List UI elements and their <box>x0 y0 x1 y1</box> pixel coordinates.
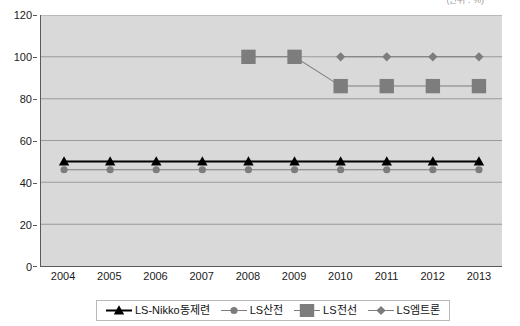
plot-area <box>40 15 502 267</box>
series-line <box>248 57 478 86</box>
unit-annotation: (단위 : %) <box>447 0 485 6</box>
x-axis-tick-label: 2008 <box>236 270 260 282</box>
chart-legend: LS-Nikko동제련LS산전LS전선LS엠트론 <box>96 300 450 321</box>
marker-diamond <box>382 52 391 61</box>
x-axis: 2004200520062007200820092010201120122013 <box>40 270 502 288</box>
y-axis-tick-label: 80 <box>20 94 32 105</box>
marker-square <box>300 304 314 317</box>
x-axis-tick-label: 2006 <box>143 270 167 282</box>
y-axis-tick-label: 0 <box>26 262 32 273</box>
y-axis: 020406080100120 <box>0 15 36 267</box>
marker-square <box>426 79 440 93</box>
triangle-marker-icon <box>106 304 132 317</box>
series-2 <box>60 166 482 173</box>
y-axis-tick-mark <box>33 15 37 16</box>
marker-diamond <box>376 306 385 315</box>
legend-item-label: LS엠트론 <box>397 305 440 316</box>
marker-circle <box>291 166 298 173</box>
marker-diamond <box>474 52 483 61</box>
y-axis-tick-mark <box>33 183 37 184</box>
y-axis-tick-mark <box>33 266 37 267</box>
marker-diamond <box>336 52 345 61</box>
marker-square <box>241 50 255 64</box>
marker-circle <box>245 166 252 173</box>
y-axis-tick-mark <box>33 141 37 142</box>
series-1 <box>59 156 484 165</box>
y-axis-tick-label: 40 <box>20 178 32 189</box>
x-axis-tick-label: 2004 <box>51 270 75 282</box>
marker-circle <box>230 307 237 314</box>
diamond-marker-icon <box>368 304 394 317</box>
series-4 <box>336 52 483 61</box>
marker-circle <box>60 166 67 173</box>
marker-square <box>472 79 486 93</box>
y-axis-tick-label: 120 <box>14 10 32 21</box>
marker-circle <box>383 166 390 173</box>
y-axis-tick-label: 100 <box>14 52 32 63</box>
chart-container: (단위 : %) 020406080100120 200420052006200… <box>0 0 520 326</box>
marker-diamond <box>428 52 437 61</box>
x-axis-tick-label: 2012 <box>420 270 444 282</box>
x-axis-tick-label: 2011 <box>375 270 399 282</box>
circle-marker-icon <box>221 304 247 317</box>
legend-item-label: LS산전 <box>250 305 283 316</box>
marker-circle <box>199 166 206 173</box>
x-axis-tick-label: 2010 <box>328 270 352 282</box>
series-3 <box>241 50 486 94</box>
square-marker-icon <box>294 304 320 317</box>
x-axis-tick-label: 2007 <box>189 270 213 282</box>
x-axis-tick-label: 2009 <box>282 270 306 282</box>
legend-item-4[interactable]: LS엠트론 <box>368 304 440 317</box>
plot-svg <box>41 15 502 266</box>
legend-item-label: LS전선 <box>323 305 356 316</box>
legend-item-2[interactable]: LS산전 <box>221 304 283 317</box>
y-axis-tick-label: 60 <box>20 136 32 147</box>
legend-item-label: LS-Nikko동제련 <box>135 305 210 316</box>
marker-circle <box>107 166 114 173</box>
marker-circle <box>429 166 436 173</box>
y-axis-tick-mark <box>33 225 37 226</box>
x-axis-tick-label: 2005 <box>97 270 121 282</box>
marker-circle <box>337 166 344 173</box>
y-axis-tick-label: 20 <box>20 220 32 231</box>
marker-circle <box>153 166 160 173</box>
marker-square <box>380 79 394 93</box>
marker-square <box>333 79 347 93</box>
marker-circle <box>475 166 482 173</box>
legend-item-3[interactable]: LS전선 <box>294 304 356 317</box>
x-axis-tick-label: 2013 <box>467 270 491 282</box>
marker-square <box>287 50 301 64</box>
y-axis-tick-mark <box>33 99 37 100</box>
y-axis-tick-mark <box>33 57 37 58</box>
legend-item-1[interactable]: LS-Nikko동제련 <box>106 304 210 317</box>
